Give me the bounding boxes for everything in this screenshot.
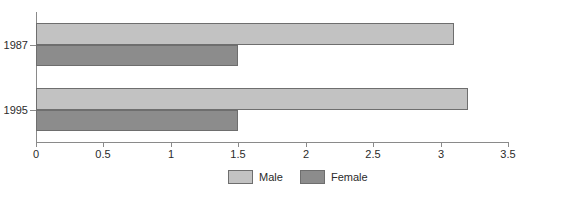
x-axis-tick-label: 1 xyxy=(151,148,191,160)
bar-1995-female xyxy=(36,110,238,131)
x-axis-tick xyxy=(373,142,374,147)
x-axis-tick xyxy=(441,142,442,147)
legend-swatch-male xyxy=(228,170,253,184)
bar-1995-male xyxy=(36,88,468,110)
x-axis-line xyxy=(36,142,508,143)
x-axis-tick-label: 3 xyxy=(421,148,461,160)
x-axis-tick xyxy=(171,142,172,147)
bar-1987-female xyxy=(36,45,238,66)
legend: Male Female xyxy=(0,168,574,190)
legend-label-male: Male xyxy=(259,170,283,184)
x-axis-tick xyxy=(103,142,104,147)
x-axis-tick-label: 0 xyxy=(16,148,56,160)
bar-chart: 1987 1995 0 0.5 1 1.5 2 2.5 3 3.5 Male F… xyxy=(0,0,574,198)
bar-1987-male xyxy=(36,23,454,45)
x-axis-tick-label: 2.5 xyxy=(353,148,393,160)
x-axis-tick xyxy=(306,142,307,147)
legend-swatch-female xyxy=(300,170,325,184)
x-axis-tick xyxy=(36,142,37,147)
x-axis-tick xyxy=(508,142,509,147)
x-axis-tick-label: 0.5 xyxy=(83,148,123,160)
x-axis-tick-label: 3.5 xyxy=(488,148,528,160)
x-axis-tick xyxy=(238,142,239,147)
x-axis-tick-label: 2 xyxy=(286,148,326,160)
y-axis-label-1995: 1995 xyxy=(0,104,28,116)
legend-label-female: Female xyxy=(331,170,368,184)
x-axis-tick-label: 1.5 xyxy=(218,148,258,160)
y-axis-label-1987: 1987 xyxy=(0,39,28,51)
